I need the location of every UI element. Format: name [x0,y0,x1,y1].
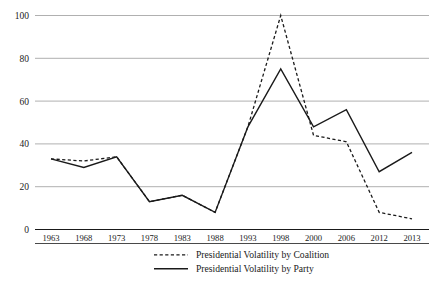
x-tick-label-2000: 2000 [305,233,322,243]
x-tick-label-1978: 1978 [141,233,158,243]
y-tick-label: 80 [20,54,30,64]
chart-container: 020406080100 196319681973197819831988199… [0,0,435,281]
x-tick-label-2012: 2012 [371,233,388,243]
x-tick-label-2006: 2006 [338,233,356,243]
y-tick-label: 0 [24,225,29,235]
x-tick-label-1968: 1968 [75,233,92,243]
x-tick-label-1993: 1993 [239,233,256,243]
y-tick-label: 100 [15,11,30,21]
y-tick-label: 60 [20,97,30,107]
y-tick-label: 20 [20,182,30,192]
x-tick-label-1983: 1983 [174,233,191,243]
y-tick-label: 40 [20,139,30,149]
legend-label-party: Presidential Volatility by Party [196,263,314,274]
x-tick-label-2013: 2013 [403,233,420,243]
presidential-volatility-line-chart: 020406080100 196319681973197819831988199… [0,0,435,281]
x-tick-label-1998: 1998 [272,233,289,243]
legend-label-coalition: Presidential Volatility by Coalition [196,249,329,260]
x-tick-label-1988: 1988 [206,233,223,243]
x-tick-label-1963: 1963 [42,233,59,243]
x-tick-label-1973: 1973 [108,233,125,243]
